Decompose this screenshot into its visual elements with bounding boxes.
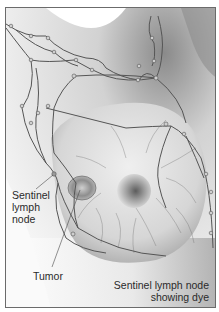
nipple-icon [117,174,151,208]
dye-label-line: Sentinel lymph node [114,279,209,291]
lymph-node [9,24,13,28]
lymph-node [29,121,33,125]
sentinel-dye-label: Sentinel lymph node showing dye [114,279,209,303]
lymph-node [137,64,141,68]
lymph-node [36,111,40,115]
lymph-node [72,74,76,78]
sentinel-node-label: Sentinel lymph node [12,189,50,225]
lymph-node [90,68,94,72]
illustration-frame: Sentinel lymph node Tumor Sentinel lymph… [5,7,216,308]
lymph-node [209,211,213,215]
sentinel-label-line: lymph [12,201,50,213]
tumor-label: Tumor [33,270,63,282]
lymph-node [209,231,213,235]
lymph-node [209,190,213,194]
breast-lymph-illustration [6,8,216,308]
lymph-node [29,58,33,62]
lymph-node [136,78,140,82]
lymph-node [152,59,156,63]
lymph-node [52,50,56,54]
lymph-node [164,122,168,126]
tumor-icon [68,176,96,200]
lymph-node [74,58,78,62]
lymph-node [154,76,158,80]
lymph-node [29,34,33,38]
lymph-node [46,36,50,40]
sentinel-label-line: Sentinel [12,189,50,201]
lymph-node [46,104,50,108]
lymph-node [71,232,75,236]
lymph-node [182,132,186,136]
lymph-node [204,172,208,176]
lymph-node [20,104,24,108]
lymph-node [150,36,154,40]
dye-label-line: showing dye [114,291,209,303]
sentinel-label-line: node [12,213,50,225]
